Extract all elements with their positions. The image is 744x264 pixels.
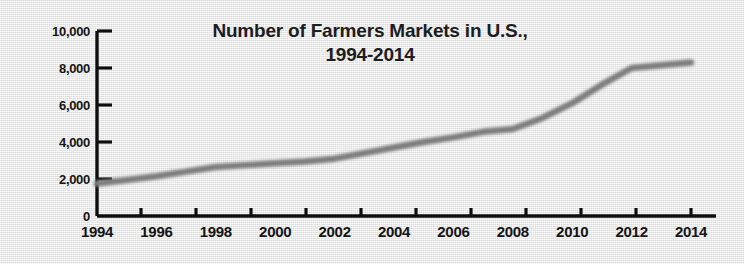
farmers-markets-line-chart: Number of Farmers Markets in U.S., 1994-… (0, 0, 744, 264)
x-tick-label-2008: 2008 (480, 223, 546, 240)
x-tick-label-2014: 2014 (658, 223, 724, 240)
x-tick-label-1994: 1994 (64, 223, 130, 240)
x-axis-tick-labels: 1994199619982000200220042006200820102012… (0, 0, 744, 264)
x-tick-label-2010: 2010 (539, 223, 605, 240)
x-tick-label-1998: 1998 (183, 223, 249, 240)
x-tick-label-2002: 2002 (302, 223, 368, 240)
x-tick-label-1996: 1996 (123, 223, 189, 240)
x-tick-label-2012: 2012 (599, 223, 665, 240)
x-tick-label-2004: 2004 (361, 223, 427, 240)
x-tick-label-2006: 2006 (420, 223, 486, 240)
x-tick-label-2000: 2000 (242, 223, 308, 240)
